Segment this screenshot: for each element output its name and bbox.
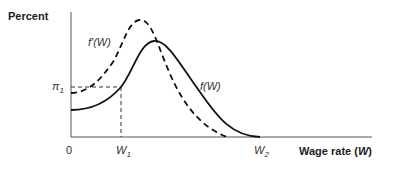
x-axis-label-text: Wage rate ( — [299, 145, 358, 157]
curve-f — [71, 41, 260, 137]
w1-subscript: 1 — [126, 150, 130, 159]
x-axis-label-variable: W — [358, 145, 368, 157]
x-axis-label-paren: ) — [368, 145, 372, 157]
w2-subscript: 2 — [264, 150, 268, 159]
curve-f-prime-label: f'(W) — [88, 36, 111, 48]
y-axis-label: Percent — [8, 10, 48, 22]
pi1-tick-label: π1 — [52, 80, 64, 95]
w1-tick-label: W1 — [116, 144, 131, 159]
w1-symbol: W — [116, 144, 126, 156]
x-axis-label: Wage rate (W) — [299, 145, 372, 157]
pi-subscript: 1 — [59, 86, 63, 95]
curve-f-label: f(W) — [200, 80, 221, 92]
w2-symbol: W — [254, 144, 264, 156]
w2-tick-label: W2 — [254, 144, 269, 159]
origin-tick-label: 0 — [66, 144, 72, 156]
